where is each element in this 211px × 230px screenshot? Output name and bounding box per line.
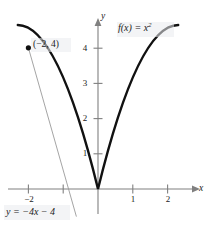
graph-figure: −2 1 2 1 2 3 4 y x f(x) = x2 y = −4x − 4… [0, 0, 211, 230]
x-tick-label-2: 2 [162, 195, 174, 204]
tangent-equation-label: y = −4x − 4 [6, 207, 55, 217]
y-tick-label-3: 3 [80, 79, 90, 88]
x-axis-label: x [199, 184, 203, 194]
function-label-exponent: 2 [148, 21, 152, 29]
x-tick-label--2: −2 [21, 195, 37, 204]
y-tick-label-4: 4 [80, 44, 90, 53]
y-tick-label-2: 2 [80, 114, 90, 123]
y-tick-label-1: 1 [80, 149, 90, 158]
x-axis [8, 186, 200, 193]
point-coordinate-label: (−2, 4) [33, 40, 59, 50]
tangent-line [28, 48, 76, 217]
x-tick-label-1: 1 [127, 195, 139, 204]
y-axis-label: y [101, 12, 105, 22]
function-label-text: f(x) = x [118, 22, 148, 33]
function-label: f(x) = x2 [118, 23, 152, 33]
